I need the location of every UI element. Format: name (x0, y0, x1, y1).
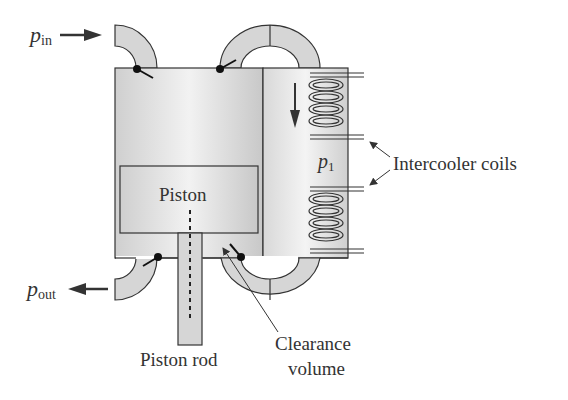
bottom-crossover-pipe (221, 258, 320, 300)
intercooler-leader-upper (370, 142, 390, 157)
piston-label: Piston (159, 184, 207, 205)
clearance-label-line1: Clearance (275, 333, 351, 354)
intercooler-label: Intercooler coils (393, 153, 517, 174)
outlet-pipe (115, 258, 157, 300)
piston-rod-label: Piston rod (140, 349, 218, 370)
p-in-label: pin (28, 22, 52, 48)
piston-rod (178, 233, 202, 345)
inlet-pipe (115, 25, 157, 68)
inlet-arrow-icon (60, 29, 102, 41)
p-out-label: pout (25, 276, 56, 302)
clearance-label-line2: volume (288, 358, 345, 379)
outlet-arrow-icon (68, 283, 108, 295)
intercooler-leader-lower (370, 170, 390, 185)
compressor-diagram: pin pout p1 Piston Piston rod Clearance … (0, 0, 568, 400)
